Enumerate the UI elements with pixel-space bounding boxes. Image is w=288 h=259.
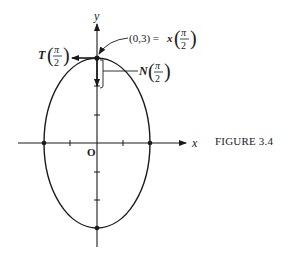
point-label: (0,3) = xyxy=(129,32,162,45)
y-axis-label: y xyxy=(93,9,100,23)
pi-numerator: π xyxy=(54,44,60,55)
vertex-left xyxy=(42,141,47,146)
two-denominator: 2 xyxy=(155,73,160,84)
paren-close: ) xyxy=(164,60,171,83)
paren-close: ) xyxy=(190,27,197,50)
paren-open: ( xyxy=(174,27,181,50)
pi-numerator: π xyxy=(181,27,187,38)
figure-caption: FIGURE 3.4 xyxy=(215,135,273,147)
vertex-right xyxy=(148,141,153,146)
paren-close: ) xyxy=(63,44,70,67)
paren-open: ( xyxy=(47,44,54,67)
tangent-label: T xyxy=(38,48,46,62)
normal-bracket xyxy=(100,60,103,88)
vertex-bottom xyxy=(95,226,100,231)
paren-open: ( xyxy=(148,60,155,83)
point-leader xyxy=(99,38,128,54)
point-fn-label: x xyxy=(166,32,173,44)
pi-numerator: π xyxy=(155,60,161,71)
x-axis-label: x xyxy=(191,136,198,150)
ellipse-diagram: y x O (0,3) = x ( π 2 ) T ( π 2 ) N ( π … xyxy=(0,0,288,259)
origin-label: O xyxy=(87,146,96,158)
two-denominator: 2 xyxy=(181,40,186,51)
two-denominator: 2 xyxy=(54,57,59,68)
